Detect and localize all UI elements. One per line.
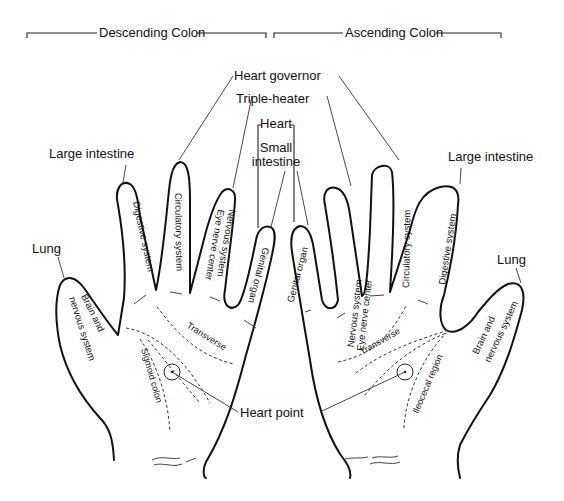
right-little-finger-label: Genital organ bbox=[285, 246, 310, 304]
heart-point-label: Heart point bbox=[240, 405, 304, 420]
descending-colon-label: Descending Colon bbox=[99, 25, 205, 40]
left-large-intestine-label: Large intestine bbox=[49, 146, 134, 161]
left-lung-label: Lung bbox=[32, 241, 61, 256]
right-ileocecal-region-label: Ileocecal region bbox=[411, 353, 445, 415]
small-intestine-label-line1: Small bbox=[260, 140, 293, 155]
small-intestine-label-line2: intestine bbox=[252, 154, 300, 169]
heart-governor-label: Heart governor bbox=[234, 68, 321, 83]
heart-point-leader-left bbox=[172, 372, 238, 412]
hand-reflexology-diagram: Descending Colon Ascending Colon Heart g… bbox=[0, 0, 564, 501]
right-hand: Genital organ Nervous system Eye nerve c… bbox=[285, 149, 534, 478]
left-middle-finger-label: Circulatory system bbox=[173, 193, 185, 271]
right-index-finger-label: Digestive system bbox=[436, 213, 458, 286]
left-sigmoid-colon-label: Sigmoid colon bbox=[139, 347, 164, 404]
heart-point-leader-right bbox=[320, 372, 405, 412]
triple-heater-label: Triple-heater bbox=[236, 91, 310, 106]
ascending-colon-bracket: Ascending Colon bbox=[274, 25, 501, 40]
heart-label: Heart bbox=[260, 116, 292, 131]
left-index-finger-label: Digestive system bbox=[131, 200, 157, 273]
right-large-intestine-label: Large intestine bbox=[448, 149, 533, 164]
right-lung-label: Lung bbox=[497, 252, 526, 267]
left-transverse-label: Transverse bbox=[185, 320, 228, 352]
left-hand: Digestive system Circulatory system Nerv… bbox=[32, 146, 275, 478]
descending-colon-bracket: Descending Colon bbox=[27, 25, 266, 40]
ascending-colon-label: Ascending Colon bbox=[345, 25, 443, 40]
right-middle-finger-label: Circulatory system bbox=[400, 210, 412, 288]
